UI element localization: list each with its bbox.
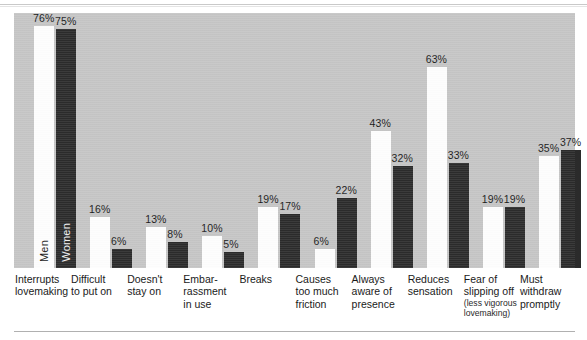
bar-men: [371, 131, 391, 268]
chart-figure: 76%75%MenWomen16%6%13%8%10%5%19%17%6%22%…: [0, 0, 587, 340]
bar-men: [539, 156, 559, 268]
category-sublabel: (less vigorous lovemaking): [464, 298, 526, 318]
category-label: Doesn't stay on: [127, 273, 189, 298]
bar-men: [483, 207, 503, 268]
bar-value-label-men: 43%: [370, 117, 391, 129]
bar-men: [34, 26, 54, 268]
category-label: Reduces sensation: [408, 273, 470, 298]
bar-value-label-women: 75%: [55, 15, 76, 27]
bar-group: 63%33%: [427, 13, 469, 268]
bar-women: [112, 249, 132, 268]
bar-value-label-women: 5%: [223, 238, 238, 250]
bar-value-label-women: 19%: [504, 193, 525, 205]
bar-women: [337, 198, 357, 268]
bar-value-label-women: 32%: [392, 152, 413, 164]
bar-group: 16%6%: [90, 13, 132, 268]
bar-value-label-women: 6%: [111, 235, 126, 247]
series-label-women: Women: [60, 223, 72, 262]
category-label: Fear of slipping off(less vigorous lovem…: [464, 273, 526, 318]
page-rule-bottom: [14, 331, 575, 332]
bar-group: 10%5%: [202, 13, 244, 268]
category-label: Causes too much friction: [296, 273, 358, 310]
bar-women: [224, 252, 244, 268]
bar-women: [505, 207, 525, 268]
bar-value-label-men: 10%: [201, 222, 222, 234]
category-label: Breaks: [239, 273, 301, 285]
page-rule-top: [0, 4, 587, 5]
bar-women: [280, 214, 300, 268]
bar-men: [315, 249, 335, 268]
bar-value-label-women: 17%: [279, 200, 300, 212]
bar-value-label-women: 8%: [167, 228, 182, 240]
bar-men: [258, 207, 278, 268]
bar-group: 13%8%: [146, 13, 188, 268]
page-rule-top-secondary: [0, 6, 587, 7]
bar-women: [449, 163, 469, 268]
bar-value-label-men: 16%: [89, 203, 110, 215]
series-label-men: Men: [38, 240, 50, 262]
bar-value-label-men: 13%: [145, 213, 166, 225]
bar-group: 43%32%: [371, 13, 413, 268]
bar-value-label-women: 22%: [336, 184, 357, 196]
bar-men: [146, 227, 166, 268]
bar-group: 76%75%MenWomen: [34, 13, 76, 268]
plot-area: 76%75%MenWomen16%6%13%8%10%5%19%17%6%22%…: [14, 13, 575, 268]
bar-women: [168, 242, 188, 268]
bar-men: [427, 67, 447, 268]
bar-value-label-women: 33%: [448, 149, 469, 161]
bar-container: 76%75%MenWomen16%6%13%8%10%5%19%17%6%22%…: [14, 13, 575, 268]
bar-value-label-men: 19%: [482, 193, 503, 205]
bar-value-label-women: 37%: [560, 136, 581, 148]
bar-value-label-men: 6%: [314, 235, 329, 247]
bar-group: 19%17%: [258, 13, 300, 268]
bar-men: [90, 217, 110, 268]
bar-group: 6%22%: [315, 13, 357, 268]
bar-value-label-men: 19%: [257, 193, 278, 205]
bar-group: 35%37%: [539, 13, 581, 268]
bar-value-label-men: 63%: [426, 53, 447, 65]
category-label: Interrupts lovemaking: [15, 273, 77, 298]
category-label: Must withdraw promptly: [520, 273, 582, 310]
bar-women: [561, 150, 581, 268]
bar-value-label-men: 76%: [33, 12, 54, 24]
bar-value-label-men: 35%: [538, 142, 559, 154]
category-label: Embar- rassment in use: [183, 273, 245, 310]
bar-group: 19%19%: [483, 13, 525, 268]
category-axis-labels: Interrupts lovemakingDifficult to put on…: [14, 273, 575, 331]
category-label: Difficult to put on: [71, 273, 133, 298]
bar-women: [393, 166, 413, 268]
bar-men: [202, 236, 222, 268]
category-label: Always aware of presence: [352, 273, 414, 310]
